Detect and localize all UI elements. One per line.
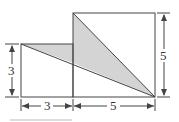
right-height-label: 5 [160, 48, 167, 63]
arrow-down-icon [161, 89, 167, 96]
bottom-small-label: 3 [44, 98, 51, 113]
arrow-up-icon [161, 14, 167, 21]
squares-diagram: 3 5 3 5 [0, 0, 179, 122]
arrow-right-icon [65, 103, 72, 109]
arrow-left-icon [22, 103, 29, 109]
arrow-right-icon [147, 103, 154, 109]
bottom-dimension [21, 99, 155, 111]
arrow-up-icon [9, 45, 15, 52]
left-height-label: 3 [8, 63, 15, 78]
arrow-left-icon [74, 103, 81, 109]
bottom-large-label: 5 [110, 98, 117, 113]
arrow-down-icon [9, 89, 15, 96]
